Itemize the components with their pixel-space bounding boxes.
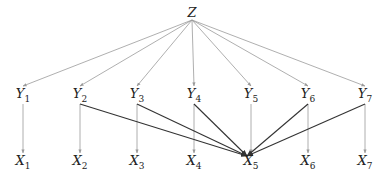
node-y7: Y7	[358, 86, 372, 104]
node-z: Z	[187, 5, 196, 20]
node-y4: Y4	[187, 86, 201, 104]
node-y3: Y3	[130, 86, 144, 104]
node-y1: Y1	[16, 86, 30, 104]
edge-Y3-X5	[137, 104, 247, 156]
node-y5: Y5	[244, 86, 258, 104]
edge-Y6-X5	[247, 104, 308, 156]
edge-Z-Y5	[192, 20, 251, 86]
edge-Z-Y3	[137, 20, 192, 86]
node-x5: X5	[244, 153, 259, 171]
node-x4: X4	[187, 153, 202, 171]
edge-Y2-X5	[80, 104, 247, 156]
edge-Z-Y7	[192, 20, 365, 86]
edge-Z-Y2	[80, 20, 192, 86]
node-x1: X1	[16, 153, 31, 171]
node-x7: X7	[358, 153, 373, 171]
node-x2: X2	[73, 153, 88, 171]
edge-Z-Y6	[192, 20, 308, 86]
node-x3: X3	[130, 153, 145, 171]
node-x6: X6	[301, 153, 316, 171]
node-y6: Y6	[301, 86, 315, 104]
edge-Y7-X5	[247, 104, 365, 156]
edge-Z-Y1	[23, 20, 192, 86]
node-y2: Y2	[73, 86, 87, 104]
edge-Z-Y4	[192, 20, 194, 86]
